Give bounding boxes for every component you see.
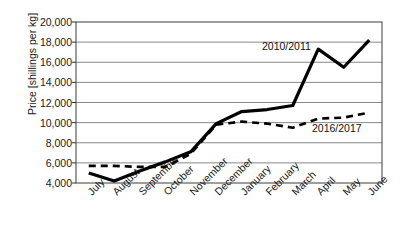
x-tick-label: August <box>110 166 142 198</box>
series-label-2016-2017: 2016/2017 <box>312 122 362 134</box>
x-tick-label: April <box>314 174 337 197</box>
x-tick-label: July <box>85 176 107 198</box>
series-label-2010-2011: 2010/2011 <box>262 40 311 52</box>
price-line-chart: Price [shillings per kg] 4,0006,0008,000… <box>0 0 400 246</box>
x-tick-label: May <box>340 175 363 198</box>
x-tick-label: June <box>365 173 390 198</box>
